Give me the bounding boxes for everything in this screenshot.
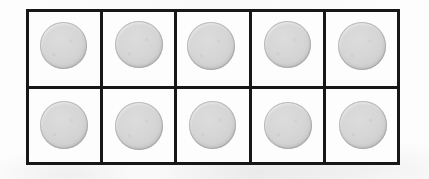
circle-icon: [40, 22, 87, 69]
grid-row: [29, 89, 397, 163]
circle-icon: [264, 102, 312, 149]
circle-icon: [187, 22, 235, 70]
circle-icon: [264, 21, 311, 68]
circle-icon: [115, 102, 163, 150]
disc-grid: [26, 9, 400, 165]
circle-icon: [338, 22, 386, 70]
grid-cell: [177, 12, 251, 86]
grid-cell: [326, 89, 397, 163]
circle-icon: [339, 101, 387, 149]
grid-row: [29, 12, 397, 89]
grid-cell: [252, 89, 326, 163]
circle-icon: [40, 101, 88, 149]
grid-cell: [103, 12, 177, 86]
circle-icon: [189, 101, 236, 149]
grid-cell: [326, 12, 397, 86]
grid-cell: [252, 12, 326, 86]
grid-cell: [29, 12, 103, 86]
grid-cell: [29, 89, 103, 163]
grid-cell: [177, 89, 251, 163]
scanned-page-background: [0, 0, 429, 179]
circle-icon: [115, 21, 163, 68]
grid-cell: [103, 89, 177, 163]
